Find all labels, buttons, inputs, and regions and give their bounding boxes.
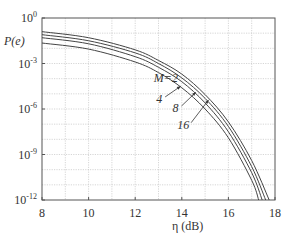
- x-tick-label: 12: [129, 206, 141, 220]
- series-line-8: [42, 35, 266, 200]
- x-tick-label: 14: [176, 206, 188, 220]
- series-line-16: [42, 32, 269, 200]
- x-axis-label: η (dB): [172, 219, 203, 233]
- annotation-label: 16: [177, 118, 189, 132]
- curves: [42, 32, 269, 200]
- chart: 81012141618 10010-310-610-910-12 P(e) η …: [0, 0, 296, 238]
- annotation-label: 8: [172, 101, 178, 115]
- annotation-arrowhead: [177, 86, 181, 89]
- annotation-label: M=2: [153, 71, 178, 85]
- series-line-4: [42, 38, 262, 200]
- x-tick-label: 18: [269, 206, 281, 220]
- grid: [42, 18, 275, 200]
- x-tick-label: 8: [39, 206, 45, 220]
- x-tick-label: 10: [83, 206, 95, 220]
- y-tick-label: 10-6: [18, 101, 37, 116]
- y-tick-label: 10-12: [14, 192, 37, 207]
- y-axis-label: P(e): [3, 34, 25, 48]
- y-tick-label: 10-3: [18, 56, 37, 71]
- y-tick-label: 10-9: [18, 147, 37, 162]
- annotation-label: 4: [156, 92, 162, 106]
- annotations: M=24816: [153, 71, 209, 132]
- y-tick-label: 100: [21, 10, 37, 25]
- x-tick-label: 16: [222, 206, 234, 220]
- series-line-m2: [42, 43, 259, 200]
